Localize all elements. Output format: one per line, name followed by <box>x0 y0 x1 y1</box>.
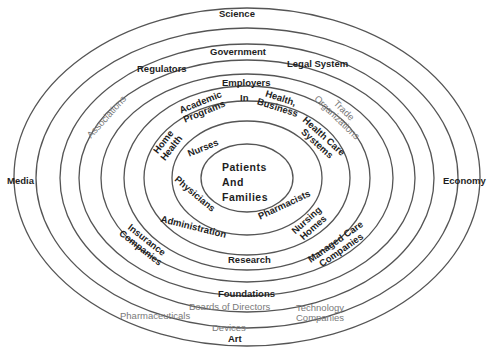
foundations-label: Foundations <box>218 289 275 299</box>
boards-of-directors-label: Boards of Directors <box>189 302 270 312</box>
research-label: Research <box>228 255 271 265</box>
in-label: In <box>240 93 248 103</box>
government-label: Government <box>210 47 266 57</box>
regulators-label: Regulators <box>137 64 187 74</box>
art-label: Art <box>228 334 242 344</box>
science-label: Science <box>219 9 255 19</box>
legal-system-label: Legal System <box>287 59 348 69</box>
media-label: Media <box>7 176 34 186</box>
devices-label: Devices <box>212 323 246 333</box>
center-label: Patients And Families <box>222 160 268 205</box>
technology-companies-label: Technology Companies <box>296 303 344 323</box>
pharmaceuticals-label: Pharmaceuticals <box>120 311 190 321</box>
stakeholder-diagram: Patients And Families Nurses Physicians … <box>0 0 492 352</box>
economy-label: Economy <box>443 176 486 186</box>
patients-label: Patients <box>222 160 268 175</box>
and-label: And <box>222 175 268 190</box>
families-label: Families <box>222 190 268 205</box>
